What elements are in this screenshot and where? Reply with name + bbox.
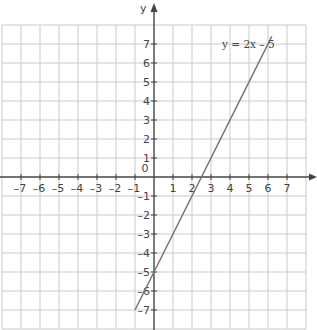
x-tick-label: –2 <box>109 182 122 195</box>
x-tick-label: 4 <box>227 182 234 195</box>
x-tick-label: 7 <box>284 182 291 195</box>
x-tick-label: 2 <box>189 182 196 195</box>
y-tick-label: 2 <box>143 133 150 146</box>
origin-label: 0 <box>142 162 149 175</box>
axes <box>0 3 317 330</box>
x-tick-label: 3 <box>208 182 215 195</box>
x-tick-label: –7 <box>14 182 27 195</box>
x-tick-label: –5 <box>52 182 65 195</box>
y-tick-label: –2 <box>138 209 151 222</box>
y-tick-label: 5 <box>143 76 150 89</box>
y-tick-label: 4 <box>143 95 150 108</box>
equation-label: y = 2x – 5 <box>221 38 275 50</box>
y-tick-label: 7 <box>143 38 150 51</box>
line-y-equals-2x-minus-5 <box>135 36 272 310</box>
coordinate-plane: –7–6–5–4–3–2–11234567–7–6–5–4–3–2–112345… <box>0 0 317 330</box>
x-axis-arrow-icon <box>309 174 317 181</box>
y-tick-label: –3 <box>138 228 151 241</box>
y-axis-label: y <box>140 2 147 15</box>
x-tick-label: –6 <box>33 182 46 195</box>
plot-series <box>135 36 272 310</box>
y-tick-label: 3 <box>143 114 150 127</box>
x-tick-label: –3 <box>90 182 103 195</box>
y-tick-label: –7 <box>138 304 151 317</box>
x-tick-label: –4 <box>71 182 84 195</box>
y-tick-label: –1 <box>138 190 151 203</box>
y-tick-label: –5 <box>138 266 151 279</box>
x-tick-label: 6 <box>265 182 272 195</box>
y-tick-label: 6 <box>143 57 150 70</box>
x-tick-label: 1 <box>170 182 177 195</box>
x-tick-label: 5 <box>246 182 253 195</box>
y-tick-label: –4 <box>138 247 151 260</box>
y-axis-arrow-icon <box>151 3 158 12</box>
